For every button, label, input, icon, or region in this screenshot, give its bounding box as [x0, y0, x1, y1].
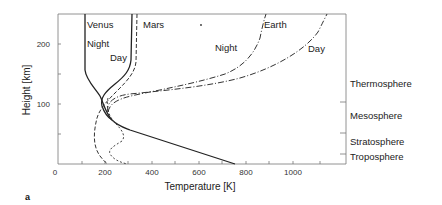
mars-day-curve — [94, 14, 137, 164]
venus-night-label: Night — [87, 38, 110, 49]
thermosphere-label: Thermosphere — [350, 78, 412, 89]
panel-label: a — [25, 192, 31, 202]
x-tick-1000: 1000 — [284, 168, 302, 177]
x-tick-800: 800 — [239, 168, 253, 177]
earth-label: Earth — [264, 19, 287, 30]
temperature-profile-chart: 0 200 400 600 800 1000 100 200 Temperatu… — [0, 0, 442, 205]
earth-day-label: Day — [308, 43, 325, 54]
stratosphere-label: Stratosphere — [350, 136, 404, 147]
venus-day-label: Day — [110, 52, 127, 63]
x-tick-600: 600 — [192, 168, 206, 177]
x-tick-400: 400 — [145, 168, 159, 177]
plot-frame — [58, 14, 346, 164]
x-tick-200: 200 — [98, 168, 112, 177]
x-axis-ticks — [82, 161, 320, 164]
x-tick-0: 0 — [53, 168, 58, 177]
mesosphere-label: Mesosphere — [350, 110, 402, 121]
venus-night-curve — [85, 14, 235, 164]
venus-label: Venus — [87, 19, 114, 30]
earth-night-label: Night — [215, 42, 238, 53]
y-axis-ticks — [58, 44, 61, 134]
mars-night-curve — [107, 98, 127, 164]
stray-dot — [200, 24, 202, 26]
troposphere-label: Troposphere — [350, 151, 404, 162]
mars-label: Mars — [143, 19, 164, 30]
layer-boundary-ticks — [340, 102, 346, 154]
earth-day-curve — [108, 14, 327, 112]
y-tick-100: 100 — [37, 100, 51, 109]
y-tick-200: 200 — [37, 40, 51, 49]
y-axis-label: Height [km] — [21, 64, 32, 115]
x-axis-label: Temperature [K] — [164, 181, 235, 192]
